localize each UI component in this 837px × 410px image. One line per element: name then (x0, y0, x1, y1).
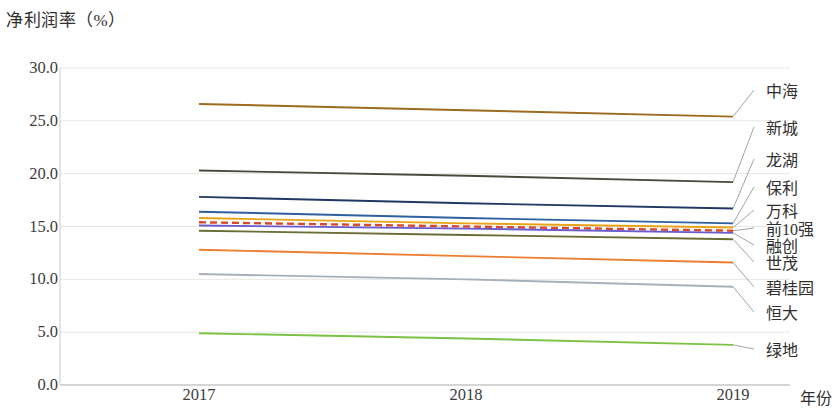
y-axis-tick-label: 10.0 (6, 269, 58, 289)
series-label-新城: 新城 (766, 115, 798, 139)
series-label-绿地: 绿地 (766, 337, 798, 361)
x-axis-title: 年份 (800, 385, 832, 409)
series-label-龙湖: 龙湖 (766, 147, 798, 171)
callout-leader-10 (733, 345, 754, 349)
data-series-group (199, 104, 733, 345)
series-label-保利: 保利 (766, 175, 798, 199)
callout-leader-9 (733, 287, 754, 312)
series-line-1 (199, 170, 733, 182)
series-line-3 (199, 212, 733, 224)
callout-leader-2 (733, 159, 754, 209)
y-axis-tick-label: 30.0 (6, 58, 58, 78)
callout-leader-0 (733, 90, 754, 117)
callout-leader-8 (733, 262, 754, 287)
net-profit-margin-line-chart: 净利润率（%） 0.05.010.015.020.025.030.0 20172… (0, 0, 837, 410)
y-axis-tick-label: 5.0 (6, 322, 58, 342)
series-label-世茂: 世茂 (766, 250, 798, 274)
callout-leader-5 (733, 228, 754, 231)
plot-area (0, 0, 837, 410)
callout-leader-lines (733, 90, 754, 349)
y-axis-tick-label: 20.0 (6, 164, 58, 184)
series-line-10 (199, 333, 733, 345)
x-axis-tick-label: 2018 (450, 385, 483, 405)
series-label-中海: 中海 (766, 78, 798, 102)
y-axis-tick-label: 25.0 (6, 111, 58, 131)
series-line-2 (199, 197, 733, 209)
x-axis-tick-label: 2019 (717, 385, 750, 405)
y-axis-ticks: 0.05.010.015.020.025.030.0 (0, 0, 58, 410)
series-line-8 (199, 250, 733, 263)
y-axis-tick-label: 15.0 (6, 217, 58, 237)
series-label-恒大: 恒大 (766, 300, 798, 324)
series-label-碧桂园: 碧桂园 (766, 275, 814, 299)
callout-leader-3 (733, 187, 754, 223)
x-axis-tick-label: 2017 (183, 385, 216, 405)
series-line-9 (199, 274, 733, 287)
series-line-0 (199, 104, 733, 117)
callout-leader-7 (733, 239, 754, 262)
y-axis-tick-label: 0.0 (6, 375, 58, 395)
